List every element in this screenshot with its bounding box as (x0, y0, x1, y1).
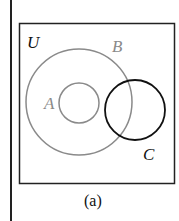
venn-diagram: U B A C (a) (0, 0, 179, 221)
set-a-circle (59, 83, 99, 123)
set-a-label: A (43, 94, 55, 113)
universe-label: U (27, 33, 41, 52)
set-b-label: B (112, 37, 123, 56)
set-b-circle (26, 49, 132, 155)
set-c-circle (105, 80, 165, 140)
set-c-label: C (143, 145, 155, 164)
figure-caption: (a) (84, 192, 102, 210)
